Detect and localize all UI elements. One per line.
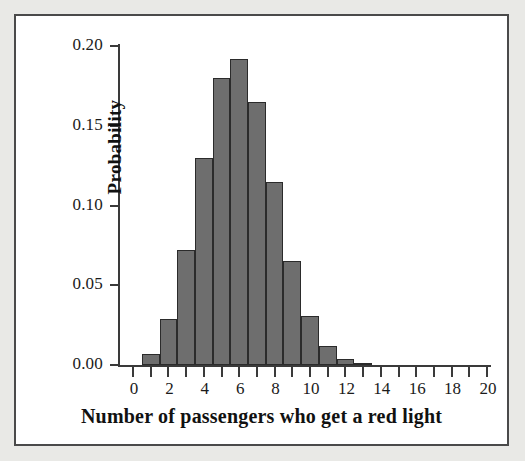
- x-tick-label: 4: [185, 379, 225, 399]
- x-axis-title: Number of passengers who get a red light: [16, 405, 507, 428]
- y-tick-mark: [110, 364, 119, 366]
- x-tick-label: 0: [114, 379, 154, 399]
- x-tick-label: 20: [468, 379, 508, 399]
- x-tick-label: 18: [433, 379, 473, 399]
- histogram-bar: [230, 59, 248, 365]
- histogram-bar: [142, 354, 160, 365]
- x-tick-mark: [309, 367, 311, 377]
- histogram-bar: [213, 78, 231, 365]
- x-tick-label: 2: [149, 379, 189, 399]
- x-tick-mark-minor: [468, 367, 470, 377]
- histogram-chart: 0.000.050.100.150.20 02468101214161820 P…: [16, 16, 507, 444]
- x-tick-mark-minor: [398, 367, 400, 377]
- page-top-margin: [0, 0, 525, 14]
- x-tick-mark-minor: [221, 367, 223, 377]
- x-tick-label: 14: [362, 379, 402, 399]
- page-background: 0.000.050.100.150.20 02468101214161820 P…: [0, 0, 525, 461]
- histogram-bar: [195, 158, 213, 365]
- x-tick-mark: [132, 367, 134, 377]
- y-tick-label: 0.15: [33, 115, 103, 135]
- y-tick-label: 0.05: [33, 274, 103, 294]
- x-tick-mark-minor: [291, 367, 293, 377]
- x-tick-mark: [380, 367, 382, 377]
- x-tick-mark-minor: [256, 367, 258, 377]
- x-tick-label: 8: [256, 379, 296, 399]
- x-tick-label: 6: [220, 379, 260, 399]
- x-tick-mark-minor: [185, 367, 187, 377]
- x-tick-mark-minor: [433, 367, 435, 377]
- histogram-bar: [354, 363, 372, 365]
- x-tick-label: 10: [291, 379, 331, 399]
- x-tick-mark: [238, 367, 240, 377]
- x-tick-mark-minor: [150, 367, 152, 377]
- x-tick-mark: [203, 367, 205, 377]
- x-tick-mark-minor: [327, 367, 329, 377]
- histogram-bar: [266, 182, 284, 365]
- x-tick-mark: [274, 367, 276, 377]
- histogram-bar: [337, 359, 355, 365]
- x-tick-mark: [415, 367, 417, 377]
- histogram-bar: [301, 316, 319, 365]
- x-tick-mark: [486, 367, 488, 377]
- y-tick-label: 0.00: [33, 354, 103, 374]
- x-tick-label: 12: [326, 379, 366, 399]
- figure-frame: 0.000.050.100.150.20 02468101214161820 P…: [14, 14, 509, 446]
- y-tick-label: 0.10: [33, 195, 103, 215]
- plot-bars-container: [133, 46, 487, 365]
- histogram-bar: [283, 261, 301, 365]
- histogram-bar: [160, 319, 178, 365]
- x-tick-mark: [344, 367, 346, 377]
- histogram-bar: [248, 102, 266, 365]
- y-tick-label: 0.20: [33, 35, 103, 55]
- y-tick-mark: [110, 284, 119, 286]
- x-tick-mark: [167, 367, 169, 377]
- histogram-bar: [319, 346, 337, 365]
- y-axis-title: Probability: [104, 62, 126, 232]
- x-axis-line: [118, 365, 491, 367]
- y-tick-mark: [110, 45, 119, 47]
- x-tick-label: 16: [397, 379, 437, 399]
- histogram-bar: [177, 250, 195, 365]
- x-tick-mark-minor: [362, 367, 364, 377]
- x-tick-mark: [451, 367, 453, 377]
